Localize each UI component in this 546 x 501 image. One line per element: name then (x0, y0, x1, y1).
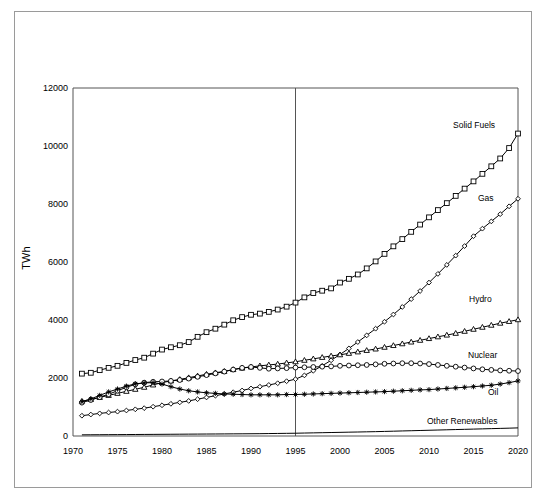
series-line (82, 428, 518, 435)
marker-star (133, 381, 138, 386)
marker-diamond (115, 409, 120, 414)
series-oil (79, 378, 520, 404)
marker-circle (471, 366, 476, 371)
marker-star (498, 381, 503, 386)
marker-circle (347, 363, 352, 368)
marker-circle (436, 363, 441, 368)
series-label-gas: Gas (478, 193, 494, 203)
marker-star (142, 380, 147, 385)
series-line (82, 381, 518, 402)
series-solid-fuels (80, 131, 521, 376)
marker-star (355, 390, 360, 395)
marker-star (507, 380, 512, 385)
marker-circle (329, 364, 334, 369)
marker-diamond (293, 377, 298, 382)
marker-square (427, 215, 432, 220)
marker-square (151, 351, 156, 356)
marker-square (507, 146, 512, 151)
y-tick-label: 4000 (48, 315, 68, 325)
series-line (82, 134, 518, 374)
marker-square (480, 171, 485, 176)
marker-diamond (186, 399, 191, 404)
marker-circle (240, 365, 245, 370)
marker-diamond (142, 406, 147, 411)
marker-circle (293, 365, 298, 370)
marker-diamond (177, 400, 182, 405)
marker-square (169, 345, 174, 350)
x-tick-label: 1985 (196, 446, 216, 456)
series-label-hydro: Hydro (469, 294, 492, 304)
marker-star (204, 390, 209, 395)
x-tick-label: 2015 (463, 446, 483, 456)
marker-star (471, 384, 476, 389)
marker-diamond (160, 403, 165, 408)
x-tick-label: 2000 (330, 446, 350, 456)
marker-star (364, 390, 369, 395)
marker-diamond (80, 413, 85, 418)
y-tick-label: 10000 (43, 141, 68, 151)
marker-circle (516, 369, 521, 374)
marker-square (516, 131, 521, 136)
marker-square (400, 237, 405, 242)
marker-star (337, 390, 342, 395)
marker-square (293, 300, 298, 305)
marker-circle (453, 364, 458, 369)
marker-square (338, 280, 343, 285)
marker-circle (320, 364, 325, 369)
marker-square (311, 291, 316, 296)
marker-square (186, 340, 191, 345)
marker-star (97, 393, 102, 398)
marker-star (106, 389, 111, 394)
x-tick-label: 1970 (63, 446, 83, 456)
line-chart: 020004000600080001000012000 197019751980… (0, 0, 546, 501)
marker-circle (480, 367, 485, 372)
marker-square (195, 334, 200, 339)
marker-square (115, 363, 120, 368)
marker-circle (400, 361, 405, 366)
marker-diamond (124, 408, 129, 413)
marker-diamond (249, 386, 254, 391)
marker-diamond (258, 384, 263, 389)
y-tick-label: 0 (63, 431, 68, 441)
series-layer (79, 131, 521, 435)
marker-square (160, 347, 165, 352)
marker-star (88, 396, 93, 401)
y-tick-label: 2000 (48, 373, 68, 383)
marker-star (284, 392, 289, 397)
marker-circle (311, 365, 316, 370)
marker-square (266, 309, 271, 314)
marker-star (426, 387, 431, 392)
marker-square (204, 330, 209, 335)
marker-star (213, 391, 218, 396)
marker-star (453, 385, 458, 390)
marker-square (462, 186, 467, 191)
marker-square (355, 272, 360, 277)
series-line (82, 320, 518, 401)
marker-star (346, 390, 351, 395)
y-tick-label: 8000 (48, 199, 68, 209)
marker-square (222, 322, 227, 327)
series-label-oil: Oil (488, 387, 499, 397)
marker-square (258, 311, 263, 316)
marker-square (133, 358, 138, 363)
y-axis-title: TWh (20, 246, 32, 269)
x-tick-label: 2010 (419, 446, 439, 456)
marker-diamond (106, 410, 111, 415)
marker-circle (204, 373, 209, 378)
marker-circle (231, 367, 236, 372)
marker-star (177, 386, 182, 391)
series-label-nuclear: Nuclear (468, 350, 497, 360)
marker-square (373, 259, 378, 264)
marker-circle (275, 366, 280, 371)
marker-square (142, 355, 147, 360)
marker-square (80, 371, 85, 376)
marker-star (195, 389, 200, 394)
marker-circle (382, 361, 387, 366)
marker-star (159, 381, 164, 386)
marker-circle (462, 365, 467, 370)
marker-square (471, 179, 476, 184)
marker-square (240, 315, 245, 320)
marker-diamond (302, 373, 307, 378)
marker-square (124, 361, 129, 366)
marker-square (231, 318, 236, 323)
